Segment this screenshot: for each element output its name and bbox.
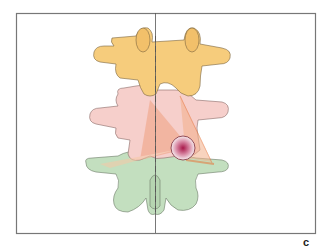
panel-label: c <box>303 236 309 248</box>
spine-diagram <box>0 0 334 251</box>
lesion-target <box>171 136 195 160</box>
